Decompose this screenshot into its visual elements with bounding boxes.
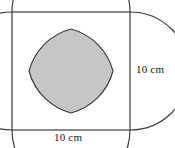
- dimension-label-bottom: 10 cm: [54, 131, 82, 143]
- dimension-label-right: 10 cm: [136, 63, 164, 75]
- geometry-figure: 10 cm 10 cm: [0, 0, 175, 148]
